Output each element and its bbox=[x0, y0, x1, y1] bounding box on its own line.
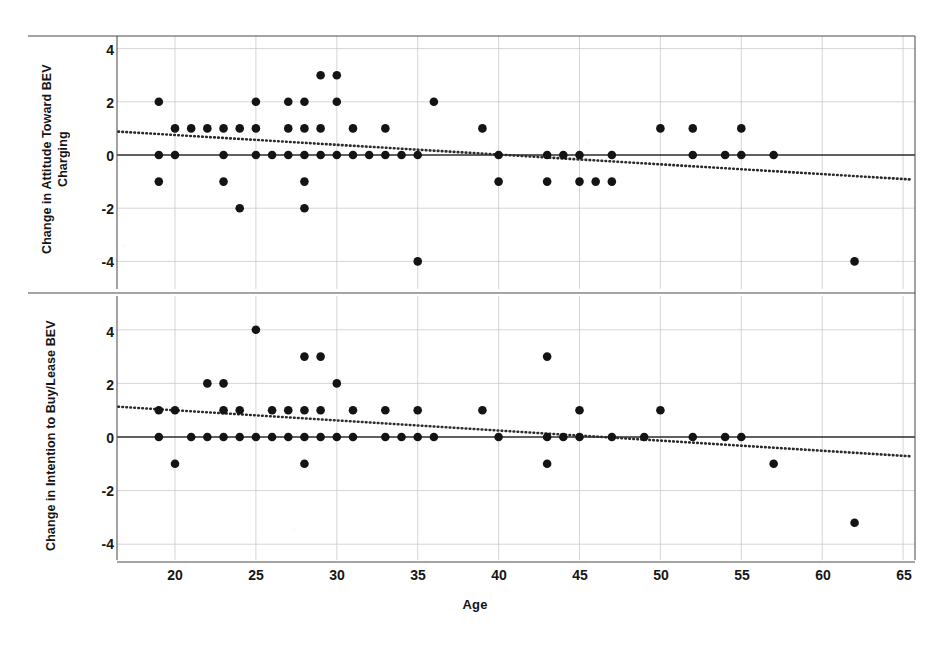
data-point bbox=[349, 124, 358, 133]
data-point bbox=[219, 177, 228, 186]
data-point bbox=[155, 151, 164, 160]
data-point bbox=[171, 151, 180, 160]
grid-layer bbox=[117, 36, 915, 560]
data-point bbox=[543, 352, 552, 361]
data-point bbox=[284, 406, 293, 415]
data-point bbox=[300, 204, 309, 213]
data-point bbox=[219, 151, 228, 160]
data-point bbox=[575, 151, 584, 160]
data-point bbox=[559, 151, 568, 160]
data-point bbox=[300, 433, 309, 442]
data-point bbox=[187, 433, 196, 442]
data-point bbox=[608, 177, 617, 186]
data-point bbox=[171, 406, 180, 415]
data-point bbox=[235, 406, 244, 415]
data-point bbox=[333, 71, 342, 80]
data-point bbox=[300, 352, 309, 361]
data-point bbox=[219, 379, 228, 388]
data-point bbox=[219, 433, 228, 442]
data-point bbox=[155, 98, 164, 107]
data-point bbox=[252, 98, 261, 107]
data-point bbox=[316, 71, 325, 80]
data-point bbox=[316, 352, 325, 361]
data-point bbox=[187, 124, 196, 133]
data-points-layer bbox=[155, 71, 859, 527]
data-point bbox=[769, 460, 778, 469]
data-point bbox=[430, 433, 439, 442]
data-point bbox=[316, 433, 325, 442]
data-point bbox=[494, 433, 503, 442]
data-point bbox=[155, 177, 164, 186]
data-point bbox=[559, 433, 568, 442]
data-point bbox=[300, 406, 309, 415]
data-point bbox=[850, 518, 859, 527]
data-point bbox=[575, 177, 584, 186]
data-point bbox=[252, 433, 261, 442]
data-point bbox=[543, 151, 552, 160]
data-point bbox=[737, 433, 746, 442]
data-point bbox=[737, 151, 746, 160]
data-point bbox=[413, 257, 422, 266]
data-point bbox=[850, 257, 859, 266]
data-point bbox=[284, 151, 293, 160]
data-point bbox=[171, 460, 180, 469]
data-point bbox=[252, 151, 261, 160]
data-point bbox=[397, 151, 406, 160]
data-point bbox=[608, 151, 617, 160]
data-point bbox=[219, 124, 228, 133]
data-point bbox=[252, 124, 261, 133]
data-point bbox=[349, 406, 358, 415]
data-point bbox=[203, 433, 212, 442]
data-point bbox=[219, 406, 228, 415]
data-point bbox=[284, 433, 293, 442]
data-point bbox=[203, 124, 212, 133]
data-point bbox=[397, 433, 406, 442]
data-point bbox=[656, 406, 665, 415]
data-point bbox=[575, 406, 584, 415]
data-point bbox=[543, 433, 552, 442]
data-point bbox=[543, 460, 552, 469]
data-point bbox=[203, 379, 212, 388]
data-point bbox=[284, 98, 293, 107]
data-point bbox=[381, 406, 390, 415]
data-point bbox=[155, 433, 164, 442]
data-point bbox=[300, 151, 309, 160]
data-point bbox=[737, 124, 746, 133]
data-point bbox=[721, 433, 730, 442]
data-point bbox=[478, 406, 487, 415]
data-point bbox=[365, 151, 374, 160]
data-point bbox=[575, 433, 584, 442]
data-point bbox=[300, 177, 309, 186]
data-point bbox=[430, 98, 439, 107]
data-point bbox=[494, 151, 503, 160]
data-point bbox=[494, 177, 503, 186]
data-point bbox=[381, 151, 390, 160]
plot-canvas bbox=[0, 0, 950, 646]
data-point bbox=[688, 124, 697, 133]
data-point bbox=[316, 124, 325, 133]
data-point bbox=[155, 406, 164, 415]
data-point bbox=[333, 151, 342, 160]
data-point bbox=[300, 124, 309, 133]
data-point bbox=[413, 406, 422, 415]
data-point bbox=[656, 124, 665, 133]
data-point bbox=[333, 379, 342, 388]
data-point bbox=[235, 433, 244, 442]
data-point bbox=[413, 151, 422, 160]
data-point bbox=[252, 326, 261, 335]
data-point bbox=[316, 406, 325, 415]
data-point bbox=[300, 98, 309, 107]
data-point bbox=[381, 124, 390, 133]
data-point bbox=[268, 433, 277, 442]
data-point bbox=[591, 177, 600, 186]
data-point bbox=[268, 406, 277, 415]
data-point bbox=[235, 124, 244, 133]
data-point bbox=[478, 124, 487, 133]
data-point bbox=[268, 151, 277, 160]
data-point bbox=[349, 151, 358, 160]
data-point bbox=[381, 433, 390, 442]
axis-frame-layer bbox=[28, 36, 915, 562]
data-point bbox=[333, 98, 342, 107]
data-point bbox=[171, 124, 180, 133]
data-point bbox=[333, 433, 342, 442]
